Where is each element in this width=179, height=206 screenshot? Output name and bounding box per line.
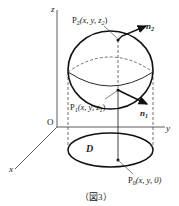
p1-label: P1(x, y, z1) [70, 102, 105, 113]
surface-outline [68, 31, 153, 109]
x-axis-label: x [8, 164, 13, 174]
region-d-label: D [85, 143, 93, 154]
n2-label: n2 [146, 21, 154, 32]
normal-n1-arrow [118, 90, 147, 104]
equator-front [68, 72, 153, 86]
diagram-canvas: z y x O D P2(x, y, z2) P1(x, y, z1) P0(x… [0, 0, 179, 206]
origin-label: O [47, 117, 54, 127]
region-d-outline [68, 133, 153, 167]
equator-back-dashed [68, 57, 153, 72]
z-axis-label: z [50, 4, 55, 14]
p2-label: P2(x, y, z2) [72, 15, 107, 26]
n1-label: n1 [140, 108, 148, 119]
figure-3-diagram: z y x O D P2(x, y, z2) P1(x, y, z1) P0(x… [0, 0, 179, 206]
figure-caption: （図3） [80, 192, 112, 202]
p0-label: P0(x, y, 0) [128, 175, 161, 186]
y-axis-label: y [165, 123, 170, 133]
x-axis [15, 127, 57, 169]
leader-p1 [105, 91, 117, 99]
